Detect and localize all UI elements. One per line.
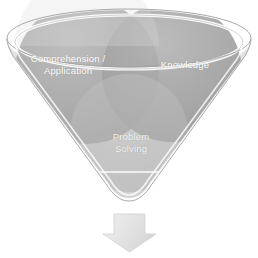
circle-overlap-shade [70,74,188,192]
circle-top-left-peek [15,0,159,46]
venn-funnel-graphic [0,0,258,258]
diagram-canvas: Comprehension / Application Knowledge Pr… [0,0,258,258]
down-arrow [103,214,156,252]
